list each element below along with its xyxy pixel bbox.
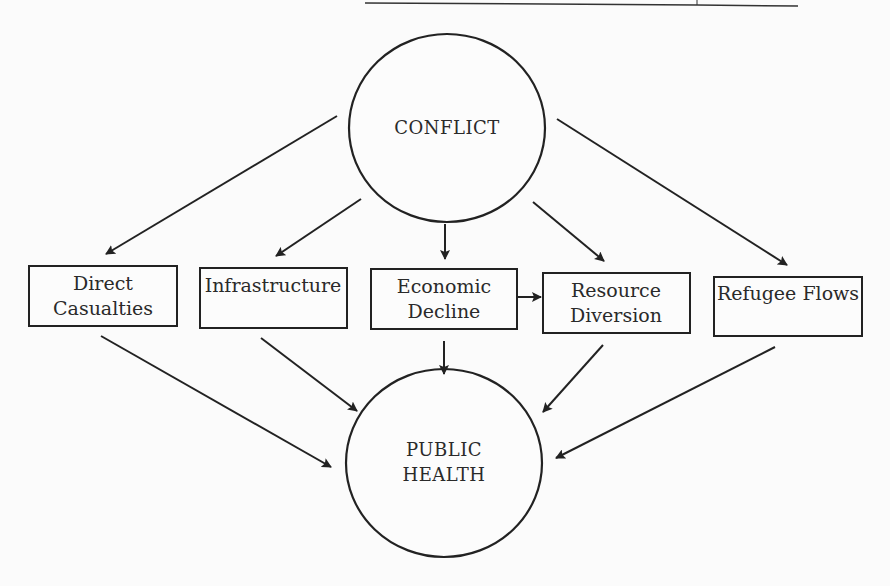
direct-casualties-node: Direct Casualties <box>29 266 177 326</box>
arrow-conflict-to-direct-casualties <box>106 116 337 254</box>
public-health-label-line2: HEALTH <box>402 464 485 485</box>
resource-diversion-line1: Resource <box>571 279 661 301</box>
resource-diversion-node: Resource Diversion <box>543 273 690 333</box>
economic-decline-node: Economic Decline <box>371 269 517 329</box>
conflict-health-diagram: CONFLICT PUBLIC HEALTH Direct Casualties… <box>0 0 890 586</box>
arrow-refugee-to-health <box>556 347 775 458</box>
economic-decline-line2: Decline <box>408 300 481 322</box>
direct-casualties-line2: Casualties <box>53 297 153 319</box>
arrow-infrastructure-to-health <box>261 338 357 411</box>
refugee-flows-label: Refugee Flows <box>717 282 859 304</box>
public-health-node: PUBLIC HEALTH <box>346 369 542 557</box>
resource-diversion-line2: Diversion <box>570 304 662 326</box>
arrow-conflict-to-resource-diversion <box>533 202 604 261</box>
infrastructure-label: Infrastructure <box>205 274 342 296</box>
arrow-conflict-to-infrastructure <box>276 199 361 256</box>
refugee-flows-node: Refugee Flows <box>714 277 862 336</box>
public-health-label-line1: PUBLIC <box>406 439 482 460</box>
conflict-label: CONFLICT <box>394 117 500 138</box>
direct-casualties-line1: Direct <box>73 272 133 294</box>
conflict-node: CONFLICT <box>349 34 545 222</box>
arrow-direct-casualties-to-health <box>101 336 331 467</box>
arrow-resource-to-health <box>543 345 603 412</box>
infrastructure-node: Infrastructure <box>200 268 347 328</box>
economic-decline-line1: Economic <box>397 275 491 297</box>
arrow-conflict-to-refugee-flows <box>557 119 787 265</box>
top-rule <box>365 0 798 6</box>
